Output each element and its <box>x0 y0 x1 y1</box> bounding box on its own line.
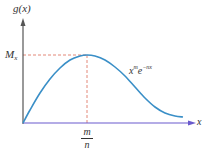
x-axis-label: x <box>197 117 201 127</box>
peak-value-main: M <box>5 48 14 60</box>
curve-annotation: xme−nx <box>129 64 152 76</box>
y-axis-arrow-icon <box>21 18 26 26</box>
peak-x-denominator: n <box>85 139 90 149</box>
curve-line <box>23 55 183 123</box>
peak-value-label: Mx <box>5 49 17 62</box>
curve-annotation-exp2: −nx <box>142 64 152 70</box>
x-axis-arrow-icon <box>188 121 196 126</box>
peak-x-label: m n <box>81 127 93 149</box>
peak-value-sub: x <box>14 54 17 62</box>
y-axis-label: g(x) <box>13 3 31 14</box>
chart-canvas <box>0 0 204 149</box>
peak-x-numerator: m <box>83 126 90 137</box>
